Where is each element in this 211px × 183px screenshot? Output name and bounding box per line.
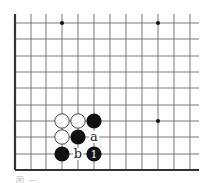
white-stone: [71, 114, 85, 128]
grid-lines: [15, 14, 199, 170]
black-stone: [86, 113, 101, 128]
star-point-icon: [60, 21, 64, 25]
diagram-caption: 图 —: [16, 174, 38, 183]
white-stone: [55, 114, 69, 128]
black-stone: [70, 129, 85, 144]
move-number-label: 1: [91, 148, 98, 161]
black-stone: 1: [86, 146, 101, 161]
point-marker-a: a: [90, 129, 98, 144]
star-point-icon: [156, 119, 160, 123]
point-marker-b: b: [74, 146, 82, 161]
white-stone: [55, 130, 69, 144]
star-point-icon: [156, 21, 160, 25]
go-board: 1 ab: [0, 0, 211, 183]
black-stone: [54, 146, 69, 161]
